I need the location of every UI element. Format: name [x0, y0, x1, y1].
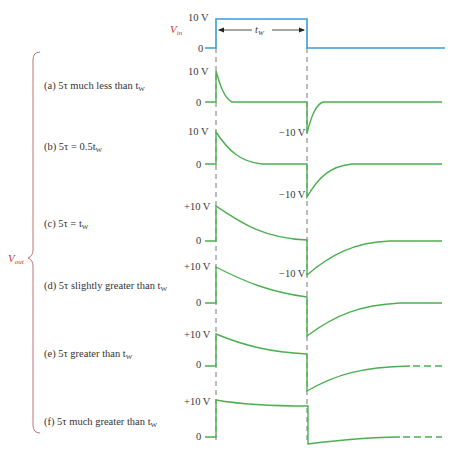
- zero-label-c: 0: [196, 235, 201, 246]
- vout-waveform-c: +10 V 0 −10 V: [184, 201, 442, 279]
- zero-label-f: 0: [196, 431, 201, 442]
- vout-waveform-d: +10 V 0: [184, 261, 442, 336]
- tw-label: tW: [255, 24, 265, 37]
- peak-label-a: 10 V: [188, 66, 209, 77]
- vin-pulse: [205, 19, 445, 48]
- case-a-label: (a) 5τ much less than tW: [44, 80, 145, 93]
- zero-label-e: 0: [196, 359, 201, 370]
- peak-label-d: +10 V: [184, 261, 211, 272]
- vout-label: Vout: [8, 252, 25, 266]
- zero-label-a: 0: [196, 97, 201, 108]
- peak-label-f: +10 V: [184, 396, 211, 407]
- vout-waveform-e: +10 V 0: [184, 329, 442, 391]
- vin-high-label: 10 V: [188, 12, 209, 23]
- vin-low-label: 0: [198, 43, 203, 54]
- case-f-label: (f) 5τ much greater than tW: [44, 416, 158, 429]
- vout-waveform-a: 10 V 0 −10 V: [188, 66, 442, 138]
- peak-label-b: 10 V: [188, 126, 209, 137]
- neg-label-b: −10 V: [279, 189, 306, 200]
- peak-label-e: +10 V: [184, 329, 211, 340]
- arrowhead-right-icon: [299, 28, 305, 33]
- rc-differentiator-waveform-diagram: Vin 10 V 0 tW Vout (a) 5τ much less than…: [0, 0, 453, 461]
- vin-label: Vin: [170, 23, 183, 37]
- zero-label-b: 0: [196, 159, 201, 170]
- zero-label-d: 0: [196, 297, 201, 308]
- neg-label-c: −10 V: [279, 268, 306, 279]
- input-waveform: Vin 10 V 0 tW: [170, 12, 445, 54]
- peak-label-c: +10 V: [184, 201, 211, 212]
- vout-waveform-f: +10 V 0: [184, 396, 442, 444]
- case-c-label: (c) 5τ = tW: [44, 218, 89, 231]
- case-d-label: (d) 5τ slightly greater than tW: [44, 280, 167, 293]
- neg-label-a: −10 V: [279, 127, 306, 138]
- arrowhead-left-icon: [218, 28, 224, 33]
- case-e-label: (e) 5τ greater than tW: [44, 348, 133, 361]
- vout-waveform-b: 10 V 0 −10 V: [188, 126, 442, 200]
- vout-bracket: Vout: [8, 52, 40, 433]
- case-b-label: (b) 5τ = 0.5tW: [44, 141, 103, 154]
